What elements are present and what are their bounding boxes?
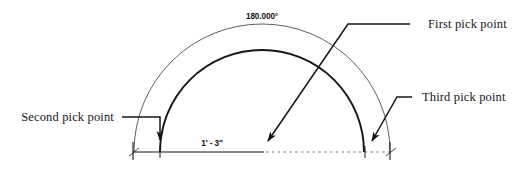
angular-dimension-text: 180.000° <box>246 12 278 21</box>
linear-dimension-text: 1' - 3" <box>201 139 223 148</box>
inner-arc-object <box>160 50 364 152</box>
leader-line-first-pick-point <box>268 24 410 141</box>
diagram-canvas: 180.000° 1' - 3" First pick point Second… <box>0 0 526 172</box>
label-first-pick-point: First pick point <box>428 17 507 31</box>
arc-dimension-diagram: 180.000° 1' - 3" First pick point Second… <box>0 0 526 172</box>
leader-line-second-pick-point <box>122 117 160 140</box>
label-second-pick-point: Second pick point <box>21 110 114 124</box>
leader-line-third-pick-point <box>372 97 412 141</box>
outer-dimension-arc <box>134 24 390 152</box>
dimension-tick-right-slash <box>386 148 396 156</box>
label-third-pick-point: Third pick point <box>422 90 506 104</box>
